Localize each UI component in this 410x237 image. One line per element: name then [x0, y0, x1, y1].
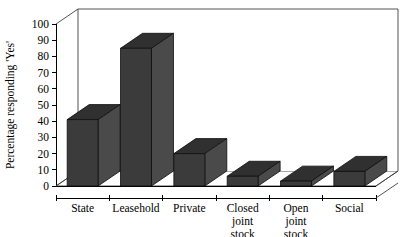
y-tick-label: 10 — [38, 164, 50, 176]
x-tick-label: joint — [284, 215, 307, 228]
x-axis-lower-depth-edge — [376, 183, 398, 198]
bar-front-face — [281, 181, 312, 186]
x-tick-label: Social — [335, 202, 364, 214]
x-tick-label: Closed — [227, 202, 259, 214]
chart-container: 0102030405060708090100StateLeaseholdPriv… — [0, 0, 410, 237]
y-tick-label: 100 — [32, 18, 50, 30]
bar-side-face — [151, 33, 173, 186]
bar-leasehold — [121, 33, 174, 186]
bar-chart-3d: 0102030405060708090100StateLeaseholdPriv… — [0, 0, 410, 237]
y-tick-label: 50 — [38, 99, 50, 111]
y-tick-label: 40 — [38, 115, 50, 127]
y-axis-title: Percentage responding 'Yes' — [4, 41, 17, 169]
x-tick-label: joint — [231, 215, 254, 228]
bar-state — [67, 105, 120, 186]
x-tick-label: stock — [284, 228, 309, 237]
x-tick-label: stock — [231, 228, 256, 237]
x-tick-label: Leasehold — [112, 202, 160, 214]
x-tick-label: State — [71, 202, 94, 214]
bar-front-face — [334, 171, 365, 186]
x-tick-label: Open — [284, 202, 309, 215]
bar-front-face — [174, 154, 205, 186]
y-tick-label: 80 — [38, 50, 50, 62]
y-tick-label: 90 — [38, 34, 50, 46]
bar-front-face — [67, 120, 98, 186]
left-wall-top-edge — [56, 9, 78, 24]
y-tick-label: 0 — [43, 180, 49, 192]
y-tick-label: 20 — [38, 148, 50, 160]
bar-front-face — [227, 176, 258, 186]
y-tick-label: 60 — [38, 83, 50, 95]
bar-front-face — [121, 48, 152, 186]
x-tick-label: Private — [173, 202, 206, 214]
y-tick-label: 30 — [38, 131, 50, 143]
y-tick-label: 70 — [38, 67, 50, 79]
